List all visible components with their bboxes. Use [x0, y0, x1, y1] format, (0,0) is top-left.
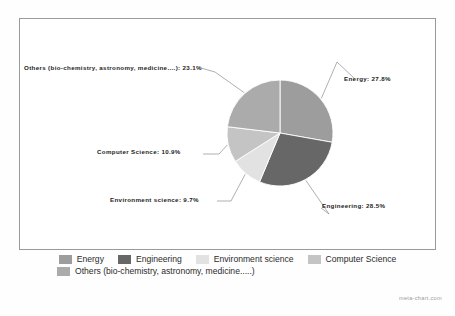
- legend-item-label: Energy: [77, 255, 104, 264]
- slice-label-others: Others (bio-chemistry, astronomy, medici…: [24, 65, 202, 71]
- legend-swatch: [308, 255, 321, 264]
- legend-swatch: [59, 255, 72, 264]
- slice-label-energy: Energy: 27.8%: [344, 76, 391, 82]
- pie-slices: [227, 80, 333, 186]
- legend-item[interactable]: Engineering: [118, 255, 182, 264]
- legend-item[interactable]: Computer Science: [308, 255, 397, 264]
- legend-item[interactable]: Environment science: [196, 255, 294, 264]
- leader-line: [217, 174, 245, 201]
- slice-label-engineering: Engineering: 28.5%: [322, 203, 385, 209]
- watermark: meta-chart.com: [399, 295, 442, 301]
- chart-canvas: Others (bio-chemistry, astronomy, medici…: [0, 0, 455, 316]
- legend-row: EnergyEngineeringEnvironment scienceComp…: [59, 255, 397, 264]
- leader-line: [201, 68, 244, 93]
- pie-chart-graphic: [19, 18, 436, 250]
- slice-label-computer-science: Computer Science: 10.9%: [97, 149, 181, 155]
- legend-swatch: [57, 267, 70, 276]
- legend-item-label: Computer Science: [326, 255, 397, 264]
- slice-label-environment-science: Environment science: 9.7%: [110, 197, 199, 203]
- leader-line: [203, 145, 227, 154]
- legend-swatch: [196, 255, 209, 264]
- legend-item-label: Engineering: [136, 255, 182, 264]
- legend-row: Others (bio-chemistry, astronomy, medici…: [0, 267, 455, 276]
- legend-item-label: Environment science: [214, 255, 294, 264]
- legend-item[interactable]: Others (bio-chemistry, astronomy, medici…: [57, 267, 255, 276]
- chart-legend: EnergyEngineeringEnvironment scienceComp…: [0, 255, 455, 276]
- legend-swatch: [118, 255, 131, 264]
- pie-slice: [227, 80, 280, 133]
- legend-item[interactable]: Energy: [59, 255, 104, 264]
- legend-item-label: Others (bio-chemistry, astronomy, medici…: [75, 267, 255, 276]
